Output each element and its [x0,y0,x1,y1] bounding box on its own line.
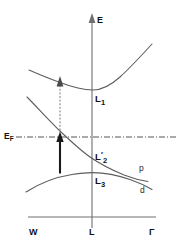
band-label-p: p [139,164,144,173]
fermi-energy-label: EF [4,132,14,141]
d-band-curve [26,173,152,192]
conduction-band-curve [29,44,152,90]
critical-point-label-l3: L3 [95,176,105,186]
band-structure-figure: E L1 L′2 L3 EF p d W L Γ [0,0,181,252]
band-label-d: d [140,186,145,195]
k-point-label-l: L [89,228,95,237]
fermi-energy-letter: E [4,131,10,141]
caption-remnant [2,243,179,251]
critical-point-l2-subscript: 2 [103,156,107,165]
optical-transition-arrow-solid [56,132,63,174]
k-point-label-gamma: Γ [149,228,155,237]
k-point-label-w: W [29,228,38,237]
band-structure-plot [0,0,181,252]
critical-point-l2-letter: L [95,151,101,162]
critical-point-l1-letter: L [95,93,101,104]
fermi-energy-subscript: F [10,135,14,142]
optical-transition-arrow-dashed [57,76,64,134]
critical-point-l3-letter: L [95,175,101,186]
energy-axis [89,13,96,228]
critical-point-label-l1: L1 [95,94,105,104]
critical-point-label-l2-prime: L′2 [95,152,107,162]
critical-point-l3-subscript: 3 [101,180,105,189]
energy-axis-label: E [97,16,103,25]
p-band-curve [27,97,148,182]
critical-point-l1-subscript: 1 [101,98,105,107]
